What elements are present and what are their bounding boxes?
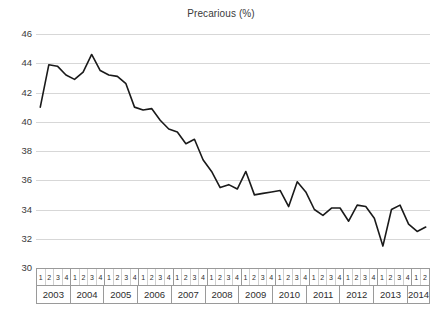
x-tick-year-2013: 2013 <box>374 286 408 303</box>
x-tick-quarter-2013-q1: 1 <box>378 269 387 285</box>
y-tick-label-36: 36 <box>4 175 32 185</box>
x-tick-quarter-2014-q1: 1 <box>412 269 421 285</box>
y-tick-label-38: 38 <box>4 146 32 156</box>
plot-area <box>36 34 430 268</box>
x-axis-year-row: 2003200420052006200720082009201020112012… <box>36 285 430 304</box>
x-tick-quarter-2012-q1: 1 <box>344 269 353 285</box>
x-tick-quarter-2010-q3: 3 <box>293 269 302 285</box>
y-tick-label-34: 34 <box>4 205 32 215</box>
x-tick-quarter-2007-q4: 4 <box>199 269 207 285</box>
x-tick-quarter-2003-q2: 2 <box>46 269 55 285</box>
x-axis-quarter-row: 1234123412341234123412341234123412341234… <box>36 268 430 285</box>
x-tick-quarter-2005-q3: 3 <box>122 269 131 285</box>
x-tick-quarter-2008-q1: 1 <box>208 269 217 285</box>
x-tick-year-2005: 2005 <box>104 286 138 303</box>
x-tick-quarter-2012-q3: 3 <box>361 269 370 285</box>
x-tick-quarter-2013-q4: 4 <box>404 269 412 285</box>
quarter-group-2012: 1234 <box>344 269 378 285</box>
x-tick-quarter-2014-q2: 2 <box>421 269 429 285</box>
x-tick-quarter-2004-q3: 3 <box>88 269 97 285</box>
x-tick-quarter-2012-q4: 4 <box>370 269 378 285</box>
x-tick-year-2006: 2006 <box>138 286 172 303</box>
x-tick-year-2009: 2009 <box>239 286 273 303</box>
x-tick-quarter-2004-q4: 4 <box>97 269 105 285</box>
x-tick-quarter-2010-q2: 2 <box>284 269 293 285</box>
x-tick-quarter-2003-q4: 4 <box>63 269 71 285</box>
x-tick-quarter-2008-q2: 2 <box>216 269 225 285</box>
x-tick-quarter-2009-q1: 1 <box>242 269 251 285</box>
y-tick-label-46: 46 <box>4 29 32 39</box>
y-tick-label-42: 42 <box>4 88 32 98</box>
series-polyline <box>40 54 425 246</box>
quarter-group-2011: 1234 <box>310 269 344 285</box>
x-tick-quarter-2009-q3: 3 <box>259 269 268 285</box>
y-tick-label-32: 32 <box>4 234 32 244</box>
chart-title: Precarious (%) <box>0 8 442 19</box>
quarter-group-2010: 1234 <box>276 269 310 285</box>
x-tick-quarter-2012-q2: 2 <box>353 269 362 285</box>
quarter-group-2003: 1234 <box>37 269 71 285</box>
quarter-group-2014: 12 <box>412 269 429 285</box>
x-tick-quarter-2004-q2: 2 <box>80 269 89 285</box>
quarter-group-2008: 1234 <box>208 269 242 285</box>
x-tick-quarter-2003-q1: 1 <box>37 269 46 285</box>
quarter-group-2007: 1234 <box>174 269 208 285</box>
line-series-precarious <box>36 34 430 268</box>
x-tick-year-2010: 2010 <box>273 286 307 303</box>
y-tick-label-44: 44 <box>4 58 32 68</box>
x-axis: 1234123412341234123412341234123412341234… <box>36 268 430 308</box>
y-tick-label-40: 40 <box>4 117 32 127</box>
x-tick-quarter-2013-q2: 2 <box>387 269 396 285</box>
x-tick-quarter-2008-q4: 4 <box>233 269 241 285</box>
x-tick-quarter-2005-q2: 2 <box>114 269 123 285</box>
x-tick-quarter-2009-q4: 4 <box>267 269 275 285</box>
x-tick-quarter-2009-q2: 2 <box>250 269 259 285</box>
quarter-group-2013: 1234 <box>378 269 412 285</box>
x-tick-quarter-2008-q3: 3 <box>225 269 234 285</box>
x-tick-year-2007: 2007 <box>172 286 206 303</box>
x-tick-year-2003: 2003 <box>37 286 71 303</box>
x-tick-quarter-2006-q4: 4 <box>165 269 173 285</box>
x-tick-quarter-2005-q1: 1 <box>105 269 114 285</box>
x-tick-quarter-2011-q4: 4 <box>336 269 344 285</box>
x-tick-quarter-2007-q2: 2 <box>182 269 191 285</box>
x-tick-quarter-2007-q3: 3 <box>191 269 200 285</box>
x-tick-quarter-2004-q1: 1 <box>71 269 80 285</box>
x-tick-quarter-2010-q1: 1 <box>276 269 285 285</box>
quarter-group-2009: 1234 <box>242 269 276 285</box>
x-tick-quarter-2011-q2: 2 <box>319 269 328 285</box>
x-tick-quarter-2005-q4: 4 <box>131 269 139 285</box>
x-tick-quarter-2003-q3: 3 <box>54 269 63 285</box>
x-tick-quarter-2011-q1: 1 <box>310 269 319 285</box>
x-tick-year-2004: 2004 <box>71 286 105 303</box>
x-tick-quarter-2011-q3: 3 <box>327 269 336 285</box>
x-tick-year-2012: 2012 <box>340 286 374 303</box>
x-tick-quarter-2006-q3: 3 <box>156 269 165 285</box>
quarter-group-2005: 1234 <box>105 269 139 285</box>
y-tick-label-30: 30 <box>4 263 32 273</box>
y-axis-tick-labels: 464442403836343230 <box>0 34 32 268</box>
x-tick-quarter-2006-q1: 1 <box>139 269 148 285</box>
x-tick-quarter-2013-q3: 3 <box>395 269 404 285</box>
x-tick-quarter-2006-q2: 2 <box>148 269 157 285</box>
chart-container: Precarious (%) 464442403836343230 123412… <box>0 0 442 323</box>
quarter-group-2004: 1234 <box>71 269 105 285</box>
x-tick-quarter-2010-q4: 4 <box>301 269 309 285</box>
x-tick-year-2014: 2014 <box>408 286 429 303</box>
quarter-group-2006: 1234 <box>139 269 173 285</box>
x-tick-year-2011: 2011 <box>307 286 341 303</box>
x-tick-year-2008: 2008 <box>206 286 240 303</box>
x-tick-quarter-2007-q1: 1 <box>174 269 183 285</box>
